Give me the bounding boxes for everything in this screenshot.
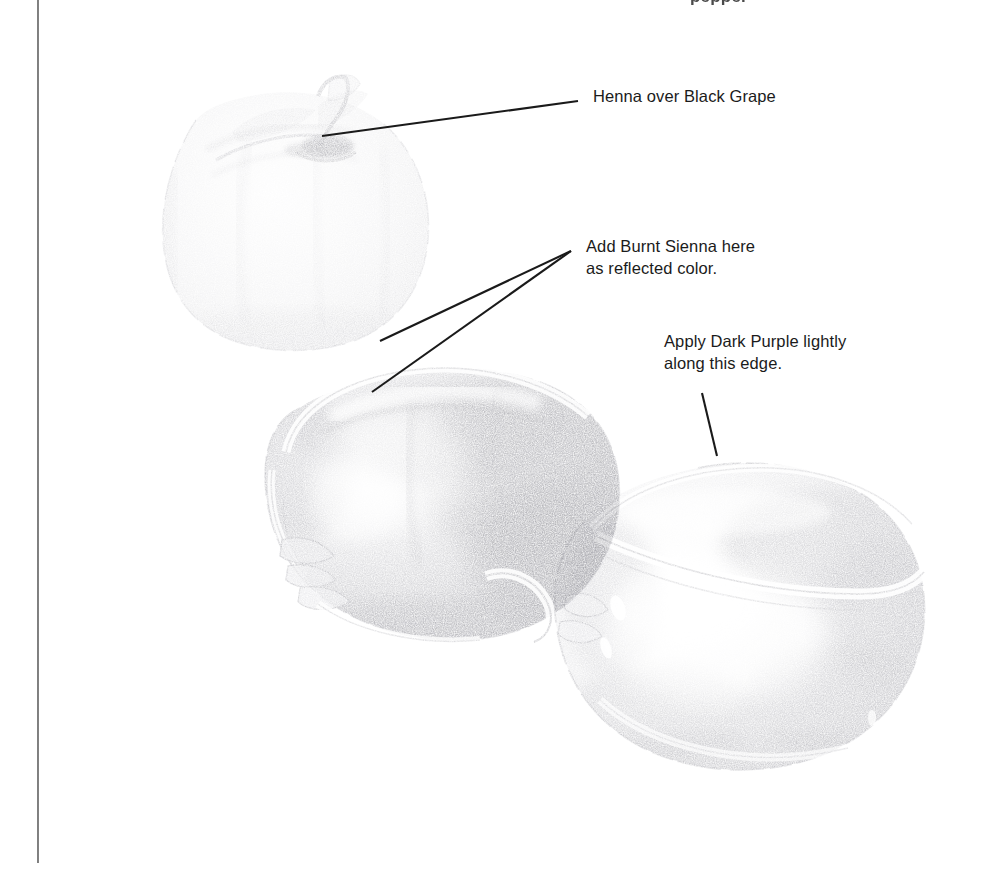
pepper-top-left (150, 75, 450, 370)
annotation-add-burnt-sienna: Add Burnt Sienna here as reflected color… (586, 236, 755, 280)
leader-line-purple (702, 393, 717, 456)
book-page: pepper (0, 0, 982, 880)
annotation-henna-over-black-grape: Henna over Black Grape (593, 86, 776, 108)
pepper-illustration (0, 0, 982, 880)
annotation-apply-dark-purple: Apply Dark Purple lightly along this edg… (664, 331, 846, 375)
